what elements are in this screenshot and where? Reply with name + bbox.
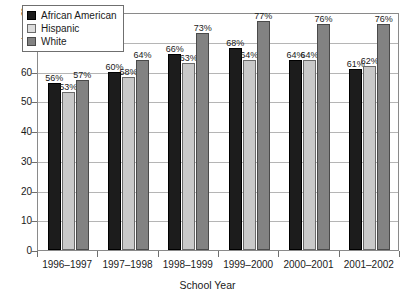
bar — [76, 80, 89, 250]
bar — [377, 24, 390, 250]
bar — [136, 60, 149, 250]
bar-value-label: 73% — [191, 24, 215, 33]
bar — [182, 63, 195, 250]
y-axis-tick-label: 60 — [2, 68, 32, 78]
bar — [108, 72, 121, 251]
bar-value-label: 76% — [312, 15, 336, 24]
legend-item-hispanic: Hispanic — [27, 22, 117, 35]
bar — [62, 92, 75, 250]
gridline — [38, 102, 398, 103]
bar — [48, 83, 61, 250]
bar — [196, 33, 209, 250]
bar-value-label: 64% — [131, 51, 155, 60]
bar — [168, 54, 181, 250]
bar — [229, 48, 242, 250]
bar — [349, 69, 362, 250]
legend: African American Hispanic White — [22, 5, 124, 52]
bar-value-label: 57% — [70, 71, 94, 80]
x-axis-tick-mark — [399, 251, 400, 257]
y-axis-tick-label: 30 — [2, 157, 32, 167]
bar — [122, 77, 135, 250]
x-axis-title: School Year — [0, 279, 415, 291]
legend-item-african-american: African American — [27, 9, 117, 22]
bar — [317, 24, 330, 250]
x-axis-group-label: 2001–2002 — [334, 259, 404, 270]
legend-item-white: White — [27, 35, 117, 48]
x-axis-tick-mark — [339, 251, 340, 257]
gridline — [38, 192, 398, 193]
legend-label-african-american: African American — [41, 10, 117, 21]
gridline — [38, 221, 398, 222]
bar-value-label: 76% — [372, 15, 396, 24]
legend-swatch-icon-white — [27, 37, 36, 46]
x-axis-tick-mark — [218, 251, 219, 257]
bar — [257, 21, 270, 250]
gridline — [38, 162, 398, 163]
x-axis-tick-mark — [278, 251, 279, 257]
gridline — [38, 132, 398, 133]
x-axis-tick-mark — [97, 251, 98, 257]
x-axis-tick-mark — [158, 251, 159, 257]
bar — [289, 60, 302, 250]
bar-value-label: 68% — [223, 39, 247, 48]
bar — [303, 60, 316, 250]
legend-label-hispanic: Hispanic — [41, 23, 79, 34]
y-axis-tick-label: 40 — [2, 127, 32, 137]
bar — [243, 60, 256, 250]
legend-label-white: White — [41, 36, 67, 47]
x-axis-tick-mark — [37, 251, 38, 257]
bar — [363, 66, 376, 250]
y-axis-tick-label: 50 — [2, 97, 32, 107]
bar-chart: 01020304050607080 56%53%57%60%58%64%66%6… — [0, 0, 415, 301]
y-axis-tick-label: 20 — [2, 187, 32, 197]
legend-swatch-icon-hispanic — [27, 24, 36, 33]
y-axis-tick-label: 10 — [2, 216, 32, 226]
y-axis-tick-label: 0 — [2, 246, 32, 256]
bar-value-label: 77% — [251, 12, 275, 21]
legend-swatch-icon-african-american — [27, 11, 36, 20]
